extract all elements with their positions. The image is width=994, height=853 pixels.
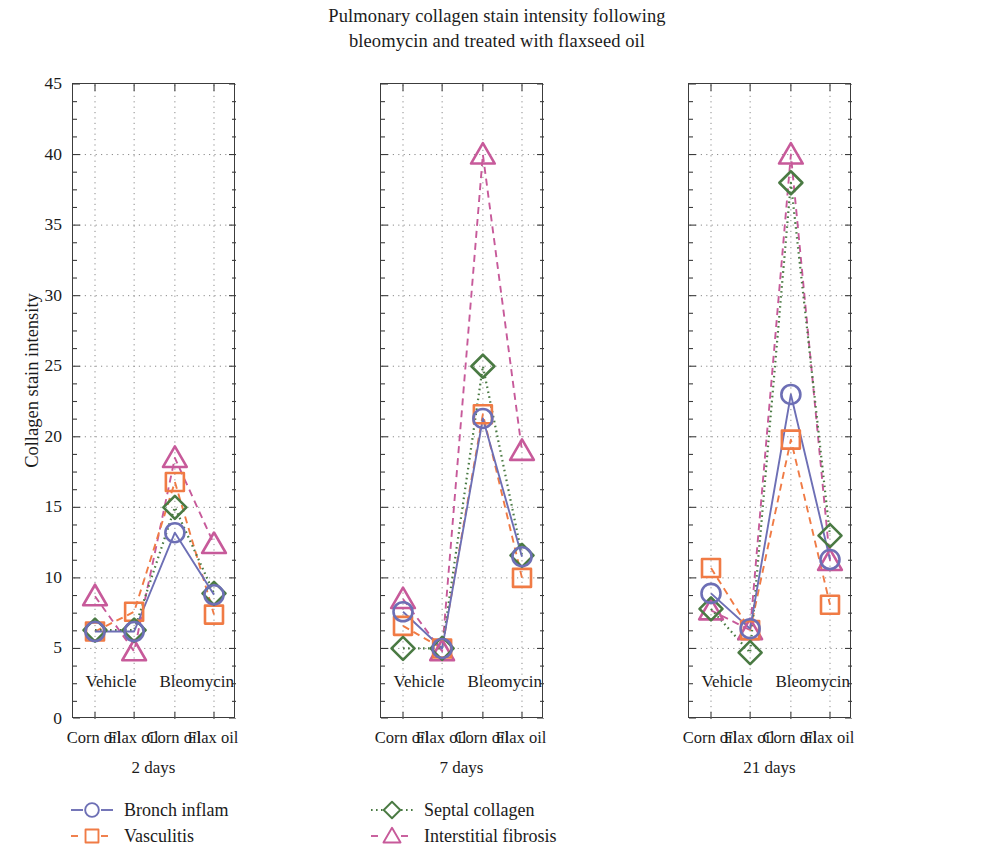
legend-triangle-marker bbox=[370, 825, 414, 847]
panel-condition-label-bleomycin: Bleomycin bbox=[775, 672, 850, 692]
panel-condition-label-vehicle: Vehicle bbox=[702, 672, 753, 692]
y-tick-label: 35 bbox=[28, 214, 62, 235]
legend-item[interactable]: Septal collagen bbox=[370, 798, 534, 822]
y-axis-tick-labels: 051015202530354045 bbox=[22, 0, 62, 853]
legend-label: Vasculitis bbox=[124, 826, 194, 847]
legend-item[interactable]: Bronch inflam bbox=[70, 798, 228, 822]
chart-panel bbox=[380, 83, 543, 718]
panel-group-label: 21 days bbox=[743, 758, 795, 778]
panel-plot-area bbox=[689, 84, 852, 719]
y-tick-label: 25 bbox=[28, 355, 62, 376]
y-tick-label: 45 bbox=[28, 73, 62, 94]
y-tick-label: 30 bbox=[28, 284, 62, 305]
y-tick-label: 0 bbox=[28, 708, 62, 729]
legend-label: Bronch inflam bbox=[124, 800, 228, 821]
legend-label: Septal collagen bbox=[424, 800, 534, 821]
chart-figure: Pulmonary collagen stain intensity follo… bbox=[0, 0, 994, 853]
chart-title-line-1: Pulmonary collagen stain intensity follo… bbox=[0, 4, 994, 29]
chart-legend: Bronch inflamVasculitisSeptal collagenIn… bbox=[70, 798, 710, 850]
data-point-triangle-marker bbox=[779, 143, 803, 164]
x-tick-label: Flax oil bbox=[188, 728, 239, 748]
legend-item[interactable]: Interstitial fibrosis bbox=[370, 824, 556, 848]
legend-diamond-marker bbox=[370, 799, 414, 821]
legend-item[interactable]: Vasculitis bbox=[70, 824, 194, 848]
data-series-line bbox=[711, 440, 830, 630]
legend-square-marker bbox=[70, 825, 114, 847]
chart-panel bbox=[72, 83, 235, 718]
data-series-line bbox=[711, 394, 830, 628]
panel-condition-label-bleomycin: Bleomycin bbox=[159, 672, 234, 692]
data-series-line bbox=[95, 507, 214, 630]
y-tick-label: 40 bbox=[28, 143, 62, 164]
x-tick-label: Flax oil bbox=[496, 728, 547, 748]
chart-title: Pulmonary collagen stain intensity follo… bbox=[0, 4, 994, 54]
y-tick-label: 20 bbox=[28, 425, 62, 446]
legend-circle-marker bbox=[70, 799, 114, 821]
legend-label: Interstitial fibrosis bbox=[424, 826, 556, 847]
chart-panel bbox=[688, 83, 851, 718]
panel-plot-area bbox=[73, 84, 236, 719]
panel-condition-label-vehicle: Vehicle bbox=[86, 672, 137, 692]
chart-title-line-2: bleomycin and treated with flaxseed oil bbox=[0, 29, 994, 54]
panel-condition-label-vehicle: Vehicle bbox=[394, 672, 445, 692]
data-series-line bbox=[403, 155, 522, 652]
y-tick-label: 5 bbox=[28, 637, 62, 658]
panel-condition-label-bleomycin: Bleomycin bbox=[467, 672, 542, 692]
data-series-line bbox=[711, 155, 830, 631]
panel-plot-area bbox=[381, 84, 544, 719]
data-series-line bbox=[403, 418, 522, 648]
y-tick-label: 15 bbox=[28, 496, 62, 517]
y-tick-label: 10 bbox=[28, 566, 62, 587]
x-tick-label: Flax oil bbox=[804, 728, 855, 748]
data-series-line bbox=[711, 183, 830, 653]
panel-group-label: 2 days bbox=[132, 758, 176, 778]
panel-group-label: 7 days bbox=[440, 758, 484, 778]
